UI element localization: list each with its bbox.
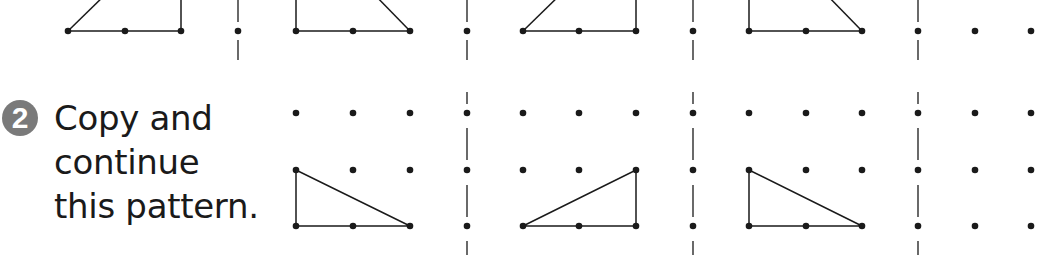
dot	[65, 28, 72, 35]
triangle-2	[523, 170, 636, 226]
dot	[972, 167, 979, 174]
dot	[350, 167, 357, 174]
dot	[633, 223, 640, 230]
dot	[915, 28, 922, 35]
dot	[972, 110, 979, 117]
dot	[407, 28, 414, 35]
dot	[859, 223, 866, 230]
dot	[859, 28, 866, 35]
dot	[293, 223, 300, 230]
top-row-pattern	[68, 0, 862, 31]
dot	[803, 110, 810, 117]
dot	[1028, 110, 1035, 117]
dot	[859, 110, 866, 117]
dot	[1028, 223, 1035, 230]
dot	[690, 223, 697, 230]
dot	[350, 28, 357, 35]
grid-dots	[65, 28, 1035, 230]
dot	[746, 28, 753, 35]
dot	[633, 167, 640, 174]
dot	[803, 223, 810, 230]
dot	[293, 167, 300, 174]
triangle-1	[296, 170, 410, 226]
dot	[746, 167, 753, 174]
dot	[690, 167, 697, 174]
dot	[576, 110, 583, 117]
dot	[915, 167, 922, 174]
dot	[746, 223, 753, 230]
dot	[576, 28, 583, 35]
dot	[122, 28, 129, 35]
dot	[520, 28, 527, 35]
dot	[746, 110, 753, 117]
dot	[576, 167, 583, 174]
dot	[576, 223, 583, 230]
dot	[690, 28, 697, 35]
dot	[407, 167, 414, 174]
dot	[350, 110, 357, 117]
dot	[293, 110, 300, 117]
dot	[803, 167, 810, 174]
dot	[690, 110, 697, 117]
dot	[407, 223, 414, 230]
dot	[293, 28, 300, 35]
dot	[859, 167, 866, 174]
dot	[1028, 167, 1035, 174]
dot	[520, 110, 527, 117]
dot	[915, 223, 922, 230]
dot	[972, 223, 979, 230]
dot	[464, 110, 471, 117]
dot	[520, 223, 527, 230]
dot	[520, 167, 527, 174]
dot	[803, 28, 810, 35]
dot	[1028, 28, 1035, 35]
dot	[235, 28, 242, 35]
dot	[972, 28, 979, 35]
dot	[464, 167, 471, 174]
separator-lines	[238, 0, 918, 255]
dot	[633, 110, 640, 117]
dot	[633, 28, 640, 35]
dot	[915, 110, 922, 117]
dot-grid-pattern	[0, 0, 1045, 260]
dot	[178, 28, 185, 35]
dot	[407, 110, 414, 117]
dot	[464, 28, 471, 35]
dot	[464, 223, 471, 230]
dot	[350, 223, 357, 230]
pattern-triangles	[296, 170, 862, 226]
triangle-3	[749, 170, 862, 226]
